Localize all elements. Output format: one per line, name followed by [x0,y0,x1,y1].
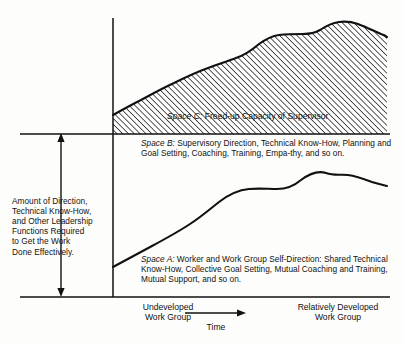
figure-container: Amount of Direction, Technical Know-How,… [0,0,405,343]
space-b-label: Space B: Supervisory Direction, Technica… [141,138,393,158]
space-a-label: Space A: Worker and Work Group Self-Dire… [141,254,395,284]
chart-graphics [0,0,405,343]
x-axis-time-label: Time [185,322,247,332]
space-b-tag: Space B: [141,138,175,148]
y-axis-label: Amount of Direction, Technical Know-How,… [12,196,108,257]
x-axis-left-label: Undeveloped Work Group [123,302,213,323]
x-axis-right-label: Relatively Developed Work Group [283,302,393,323]
lower-curve-self-direction [113,172,387,267]
space-b-text: Supervisory Direction, Technical Know-Ho… [141,138,391,158]
space-c-text: Freed-up Capacity of Supervisor [202,111,328,121]
space-c-label: Space C: Freed-up Capacity of Supervisor [167,111,328,121]
space-c-tag: Space C: [167,111,202,121]
space-a-text: Worker and Work Group Self-Direction: Sh… [141,254,388,284]
space-a-tag: Space A: [141,254,175,264]
